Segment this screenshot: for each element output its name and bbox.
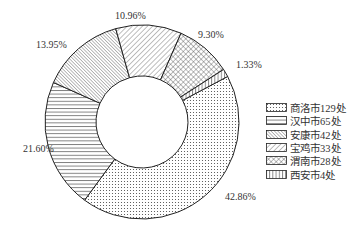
percent-label-weinan: 9.30% (198, 29, 224, 40)
crosshatch-pattern-swatch-icon (266, 156, 287, 165)
bdiag-pattern-swatch-icon (266, 130, 287, 139)
legend: 商洛市129处 汉中市65处 安康市42处 宝鸡市33处 渭南市28处 西安市4… (266, 101, 346, 181)
legend-item-shangluo: 商洛市129处 (266, 101, 346, 114)
legend-item-hanzhong: 汉中市65处 (266, 114, 346, 127)
percent-label-ankang: 13.95% (36, 39, 67, 50)
percent-label-hanzhong: 21.60% (23, 143, 54, 154)
legend-item-weinan: 渭南市28处 (266, 154, 346, 167)
percent-label-baoji: 10.96% (115, 10, 146, 21)
vlines-pattern-swatch-icon (266, 170, 287, 179)
dots-pattern-swatch-icon (266, 103, 287, 112)
hlines-pattern-swatch-icon (266, 116, 287, 125)
legend-item-xian: 西安市4处 (266, 167, 346, 180)
slice-shangluo (85, 76, 239, 219)
fdiag-pattern-swatch-icon (266, 143, 287, 152)
donut-slices (45, 25, 239, 219)
percent-label-xian: 1.33% (236, 59, 262, 70)
legend-item-ankang: 安康市42处 (266, 128, 346, 141)
legend-item-baoji: 宝鸡市33处 (266, 141, 346, 154)
percent-label-shangluo: 42.86% (225, 191, 256, 202)
legend-label: 西安市4处 (290, 167, 335, 182)
